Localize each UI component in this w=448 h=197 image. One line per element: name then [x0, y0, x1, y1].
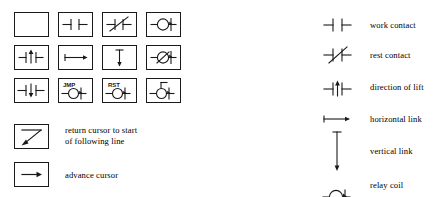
advance-cursor-row: advance cursor [14, 162, 118, 187]
advance-cursor-label: advance cursor [65, 162, 118, 181]
horizontal-link-cell[interactable] [58, 45, 93, 70]
palette-grid: JMP RST [14, 12, 181, 111]
jump-coil-cell[interactable]: JMP [58, 78, 93, 103]
direction-of-lift-icon [318, 72, 362, 102]
rest-contact-icon [318, 40, 362, 70]
legend-label: rest contact [370, 50, 411, 60]
legend-rest-contact: rest contact [318, 40, 424, 70]
rest-contact-cell[interactable] [102, 12, 137, 37]
reset-coil-text: RST [108, 82, 120, 88]
relay-coil-icon [318, 170, 362, 197]
reset-coil-cell[interactable]: RST [102, 78, 137, 103]
return-cursor-row: return cursor to start of following line [14, 124, 137, 149]
palette-row [14, 45, 181, 70]
legend: work contact rest contact [318, 10, 424, 197]
return-cursor-label: return cursor to start of following line [65, 124, 137, 146]
direction-of-fall-cell[interactable] [14, 78, 49, 103]
legend-label: work contact [370, 20, 416, 30]
palette-row: JMP RST [14, 78, 181, 103]
legend-label: relay coil [370, 180, 403, 190]
relay-coil-cell[interactable] [146, 12, 181, 37]
ladder-symbol-palette-figure: JMP RST [0, 0, 448, 197]
legend-work-contact: work contact [318, 10, 424, 40]
vertical-link-cell[interactable] [102, 45, 137, 70]
set-coil-cell[interactable] [146, 78, 181, 103]
legend-label: direction of lift [370, 82, 424, 92]
work-contact-cell[interactable] [58, 12, 93, 37]
legend-label: vertical link [370, 146, 413, 156]
return-cursor-cell[interactable] [14, 124, 49, 149]
jump-coil-text: JMP [63, 82, 75, 88]
advance-cursor-cell[interactable] [14, 162, 49, 187]
legend-vertical-link: vertical link [318, 134, 424, 168]
blank-cell[interactable] [14, 12, 49, 37]
palette-row [14, 12, 181, 37]
direction-of-lift-cell[interactable] [14, 45, 49, 70]
legend-relay-coil: relay coil [318, 168, 424, 197]
vertical-link-icon [318, 136, 362, 166]
legend-direction-of-lift: direction of lift [318, 70, 424, 104]
negated-relay-coil-cell[interactable] [146, 45, 181, 70]
work-contact-icon [318, 10, 362, 40]
legend-label: horizontal link [370, 114, 422, 124]
